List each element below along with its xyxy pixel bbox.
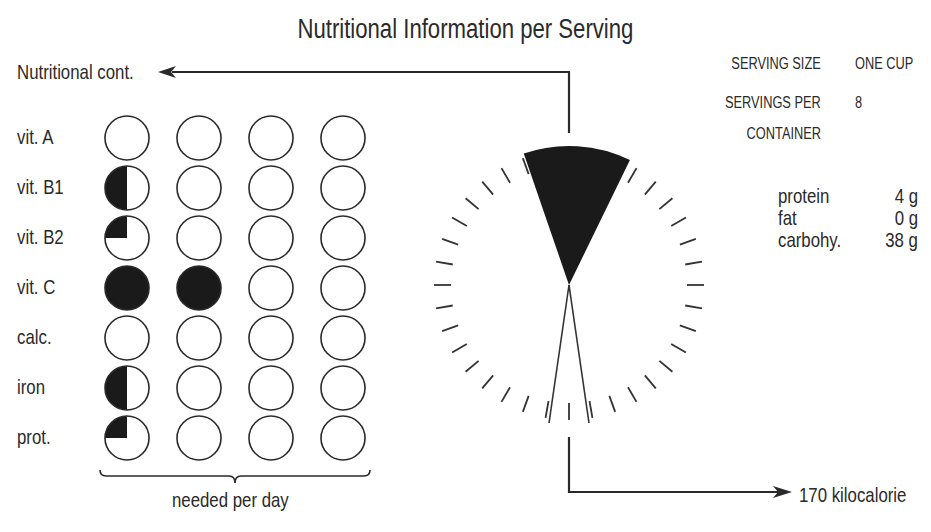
dial-tick bbox=[502, 168, 511, 183]
dial-tick bbox=[442, 325, 458, 331]
dial-tick bbox=[523, 396, 529, 412]
nutrient-circle bbox=[321, 266, 365, 310]
nutrient-circle bbox=[321, 366, 365, 410]
nutrient-circle bbox=[321, 316, 365, 360]
nutrient-circle bbox=[249, 366, 293, 410]
dial-needle bbox=[569, 285, 589, 423]
needed-per-day-brace bbox=[100, 470, 370, 483]
dial-tick bbox=[659, 361, 672, 372]
nutrient-circle bbox=[249, 116, 293, 160]
dial-tick bbox=[645, 375, 656, 388]
dial-tick bbox=[628, 168, 637, 183]
dial-tick bbox=[645, 182, 656, 195]
dial-tick bbox=[685, 305, 702, 308]
dial-tick bbox=[436, 305, 453, 308]
dial-tick bbox=[659, 198, 672, 209]
dial-tick bbox=[436, 262, 453, 265]
nutrient-circle bbox=[105, 266, 149, 310]
nutrient-circle bbox=[249, 216, 293, 260]
nutrient-circle bbox=[105, 416, 149, 460]
dial-tick bbox=[685, 262, 702, 265]
nutritional-content-arrow bbox=[158, 66, 569, 133]
nutrient-circle-grid bbox=[105, 116, 365, 460]
calorie-dial bbox=[434, 146, 704, 423]
nutrient-circle bbox=[177, 166, 221, 210]
dial-tick bbox=[466, 361, 479, 372]
nutrient-circle bbox=[177, 416, 221, 460]
dial-tick bbox=[671, 218, 686, 227]
nutrient-circle bbox=[105, 316, 149, 360]
dial-tick bbox=[671, 344, 686, 353]
nutrient-circle bbox=[105, 116, 149, 160]
dial-tick bbox=[680, 239, 696, 245]
dial-tick bbox=[628, 387, 637, 402]
nutrient-circle bbox=[321, 116, 365, 160]
dial-tick bbox=[466, 198, 479, 209]
dial-tick bbox=[680, 325, 696, 331]
nutrient-circle bbox=[177, 216, 221, 260]
dial-tick bbox=[482, 375, 493, 388]
nutrient-circle bbox=[105, 166, 149, 210]
nutrient-circle bbox=[249, 316, 293, 360]
kilocalorie-arrow bbox=[569, 437, 792, 498]
diagram-graphics bbox=[0, 0, 931, 532]
dial-tick bbox=[546, 401, 549, 418]
dial-tick bbox=[442, 239, 458, 245]
dial-needle bbox=[549, 285, 569, 423]
nutrient-circle bbox=[177, 266, 221, 310]
nutrient-circle bbox=[177, 316, 221, 360]
dial-tick bbox=[452, 218, 467, 227]
nutrient-circle bbox=[249, 266, 293, 310]
dial-tick bbox=[452, 344, 467, 353]
nutrient-circle bbox=[321, 166, 365, 210]
nutrient-circle bbox=[177, 116, 221, 160]
nutrient-circle bbox=[249, 416, 293, 460]
dial-tick bbox=[502, 387, 511, 402]
nutrient-circle bbox=[177, 366, 221, 410]
nutrient-circle bbox=[105, 216, 149, 260]
calorie-wedge bbox=[524, 146, 630, 285]
dial-tick bbox=[589, 401, 592, 418]
dial-tick bbox=[609, 396, 615, 412]
dial-tick bbox=[482, 182, 493, 195]
nutrient-circle bbox=[105, 366, 149, 410]
nutrient-circle bbox=[321, 416, 365, 460]
nutrient-circle bbox=[321, 216, 365, 260]
nutrient-circle bbox=[249, 166, 293, 210]
